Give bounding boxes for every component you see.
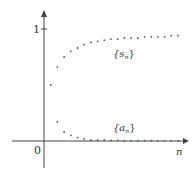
s-series-label: {sn} bbox=[113, 48, 135, 60]
data-point bbox=[117, 140, 119, 142]
data-point bbox=[70, 135, 72, 137]
x-axis-arrow-icon bbox=[183, 138, 189, 144]
data-point bbox=[70, 51, 72, 53]
data-point bbox=[97, 40, 99, 42]
data-point bbox=[97, 139, 99, 141]
data-point bbox=[110, 38, 112, 40]
data-point bbox=[144, 36, 146, 38]
data-point bbox=[50, 84, 52, 86]
data-point bbox=[63, 56, 65, 58]
data-point bbox=[90, 139, 92, 141]
data-point bbox=[170, 140, 172, 142]
data-point bbox=[157, 36, 159, 38]
data-point bbox=[83, 138, 85, 140]
data-point bbox=[137, 140, 139, 142]
data-point bbox=[170, 35, 172, 37]
data-point bbox=[77, 137, 79, 139]
data-point bbox=[103, 39, 105, 41]
data-point bbox=[90, 42, 92, 44]
data-point bbox=[117, 38, 119, 40]
data-point bbox=[164, 140, 166, 142]
data-point bbox=[83, 44, 85, 46]
data-point bbox=[144, 140, 146, 142]
data-point bbox=[137, 37, 139, 39]
data-point bbox=[124, 140, 126, 142]
x-axis-label: n bbox=[176, 146, 182, 157]
data-point bbox=[157, 140, 159, 142]
data-point bbox=[124, 37, 126, 39]
data-point bbox=[110, 140, 112, 142]
data-point bbox=[130, 37, 132, 39]
origin-label: 0 bbox=[34, 144, 41, 157]
data-point bbox=[150, 140, 152, 142]
y-tick-label-1: 1 bbox=[33, 23, 40, 36]
sequence-chart: 1 0 n {sn} {an} bbox=[0, 0, 193, 173]
data-point bbox=[77, 47, 79, 49]
data-point bbox=[164, 36, 166, 38]
data-point bbox=[57, 66, 59, 68]
data-point bbox=[57, 121, 59, 123]
s-series-points bbox=[50, 35, 179, 86]
y-axis-arrow-icon bbox=[41, 10, 47, 17]
data-point bbox=[150, 36, 152, 38]
data-point bbox=[177, 140, 179, 142]
a-series-label: {an} bbox=[113, 122, 136, 134]
y-axis bbox=[41, 10, 47, 168]
data-point bbox=[177, 35, 179, 37]
data-point bbox=[130, 140, 132, 142]
data-point bbox=[103, 139, 105, 141]
data-point bbox=[63, 131, 65, 133]
